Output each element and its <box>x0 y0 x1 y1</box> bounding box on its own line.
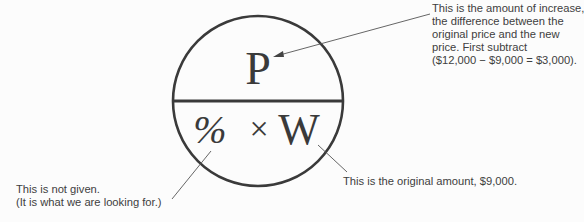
annotation-line: This is the original amount, $9,000. <box>343 175 517 188</box>
annotation-line: ($12,000 − $9,000 = $3,000). <box>432 54 584 67</box>
whole-label: W <box>278 105 320 154</box>
annotation-line: price. First subtract <box>432 41 584 54</box>
part-leader-line <box>276 14 430 56</box>
percent-annotation: This is not given. (It is what we are lo… <box>16 183 162 209</box>
part-label: P <box>245 43 271 94</box>
whole-annotation: This is the original amount, $9,000. <box>343 175 517 188</box>
annotation-line: This is not given. <box>16 183 162 196</box>
part-annotation: This is the amount of increase, the diff… <box>432 2 584 67</box>
annotation-line: the difference between the <box>432 15 584 28</box>
percent-leader-line <box>172 151 211 199</box>
percent-label: % <box>193 107 226 152</box>
annotation-line: This is the amount of increase, <box>432 2 584 15</box>
annotation-line: (It is what we are looking for.) <box>16 196 162 209</box>
annotation-line: original price and the new <box>432 28 584 41</box>
arrowhead-icon <box>273 51 284 57</box>
times-sign: × <box>249 110 268 147</box>
